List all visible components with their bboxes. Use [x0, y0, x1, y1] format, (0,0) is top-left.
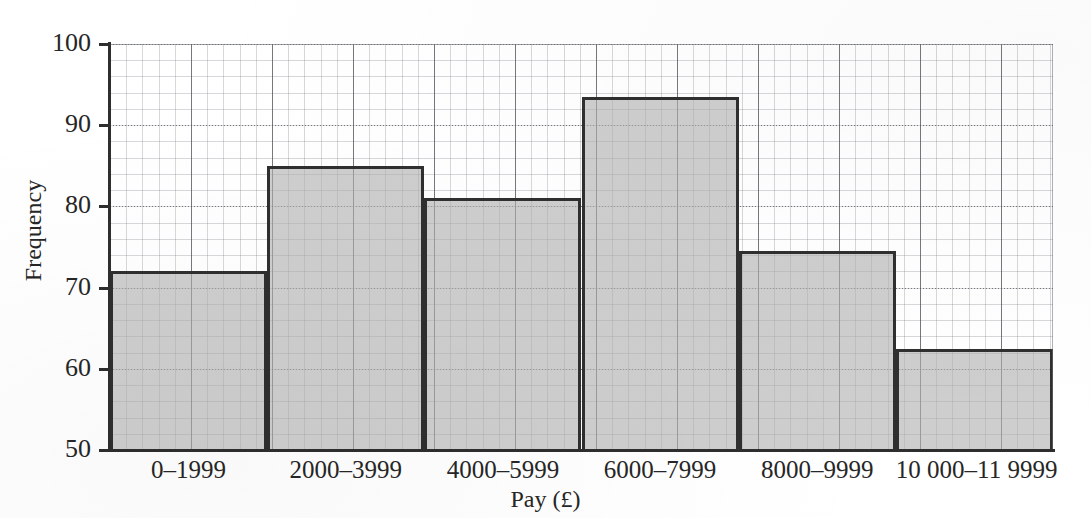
x-axis-line: [108, 449, 1055, 452]
y-axis-tick-label: 100: [31, 30, 91, 56]
y-axis-tick: [99, 287, 111, 290]
histogram-figure: 5060708090100 0–19992000–39994000–599960…: [0, 0, 1091, 518]
y-axis-title: Frequency: [20, 151, 47, 311]
y-axis-tick: [99, 43, 111, 46]
x-axis-category-label: 8000–9999: [739, 456, 896, 484]
y-axis-tick: [99, 205, 111, 208]
y-axis-tick: [99, 368, 111, 371]
y-axis-tick-label: 50: [31, 436, 91, 462]
y-axis-line: [108, 42, 111, 452]
plot-border-right: [1052, 44, 1053, 450]
x-axis-category-label: 10 000–11 9999: [896, 456, 1053, 484]
y-axis-tick-label: 60: [31, 355, 91, 381]
y-axis-tick: [99, 124, 111, 127]
histogram-bar: [267, 166, 424, 450]
x-axis-title: Pay (£): [0, 486, 1091, 513]
x-axis-category-label: 4000–5999: [424, 456, 581, 484]
x-axis-category-label: 2000–3999: [267, 456, 424, 484]
histogram-bar: [110, 271, 267, 450]
x-axis-category-label: 6000–7999: [582, 456, 739, 484]
histogram-bar: [582, 97, 739, 450]
histogram-bar: [896, 349, 1053, 451]
y-axis-tick: [99, 449, 111, 452]
histogram-bar: [739, 251, 896, 450]
plot-border-top: [110, 44, 1053, 45]
x-axis-category-label: 0–1999: [110, 456, 267, 484]
plot-area: [110, 44, 1053, 450]
histogram-bar: [424, 198, 581, 450]
y-axis-tick-label: 90: [31, 111, 91, 137]
